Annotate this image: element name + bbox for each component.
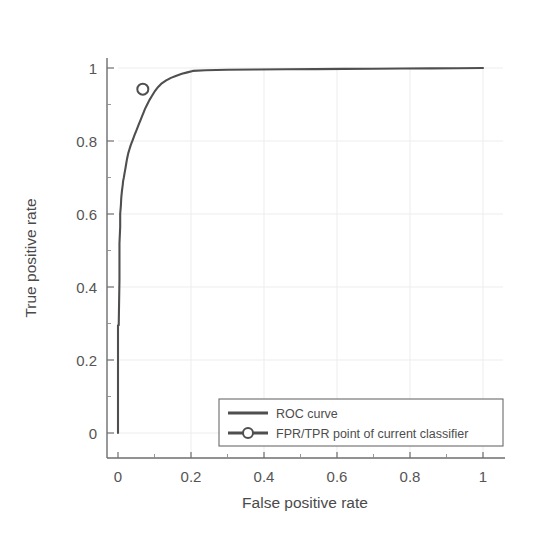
- y-tick-label-0.4: 0.4: [76, 279, 97, 296]
- chart-legend: ROC curve FPR/TPR point of current class…: [219, 399, 503, 446]
- legend-label-roc-curve: ROC curve: [276, 407, 338, 421]
- y-axis-title: True positive rate: [22, 198, 39, 317]
- legend-circle-marker-icon: [243, 428, 253, 438]
- x-tick-label-0.6: 0.6: [327, 468, 348, 485]
- x-tick-label-0.4: 0.4: [254, 468, 275, 485]
- y-tick-label-1: 1: [89, 60, 97, 77]
- legend-label-classifier-point: FPR/TPR point of current classifier: [276, 427, 468, 441]
- y-tick-label-0.2: 0.2: [76, 352, 97, 369]
- roc-chart-svg: 1 0.8 0.6 0.4 0.2 0 0 0.2 0.4 0.6 0.8 1 …: [0, 0, 544, 545]
- chart-background: [0, 0, 544, 545]
- roc-chart-figure: 1 0.8 0.6 0.4 0.2 0 0 0.2 0.4 0.6 0.8 1 …: [0, 0, 544, 545]
- y-tick-label-0: 0: [89, 425, 97, 442]
- x-tick-label-1: 1: [479, 468, 487, 485]
- classifier-point-marker: [137, 84, 148, 95]
- y-tick-label-0.8: 0.8: [76, 133, 97, 150]
- x-tick-label-0: 0: [114, 468, 122, 485]
- y-tick-label-0.6: 0.6: [76, 206, 97, 223]
- x-tick-label-0.8: 0.8: [400, 468, 421, 485]
- x-tick-label-0.2: 0.2: [181, 468, 202, 485]
- x-axis-title: False positive rate: [242, 494, 368, 511]
